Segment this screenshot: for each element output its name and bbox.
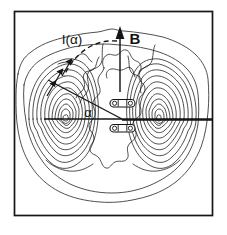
label-intensity: I(α) <box>62 32 83 47</box>
label-angle: α <box>84 105 92 120</box>
molecule-lower-atom-right <box>128 126 132 130</box>
molecule-lower-atom-left <box>113 126 117 130</box>
figure-background <box>0 0 227 235</box>
molecule-upper-atom-left <box>113 101 117 105</box>
label-field: B <box>130 30 141 47</box>
molecule-glyph-upper <box>110 100 135 108</box>
molecule-upper-atom-right <box>128 101 132 105</box>
molecule-glyph-lower <box>110 125 135 133</box>
figure-root: I(α) B α <box>0 0 227 235</box>
contour-figure: I(α) B α <box>0 0 227 235</box>
